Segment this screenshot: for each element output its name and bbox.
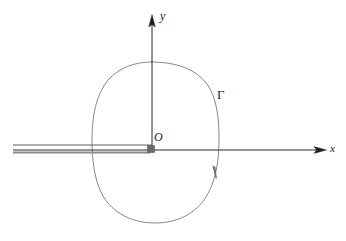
math-figure-canvas: y x O Γ [0, 0, 346, 241]
x-axis-label: x [330, 143, 335, 154]
diagram-svg [0, 0, 346, 241]
contour-gamma-label: Γ [217, 88, 225, 101]
origin-square-marker [148, 146, 155, 153]
origin-label: O [154, 131, 163, 143]
y-axis-label: y [160, 10, 165, 22]
